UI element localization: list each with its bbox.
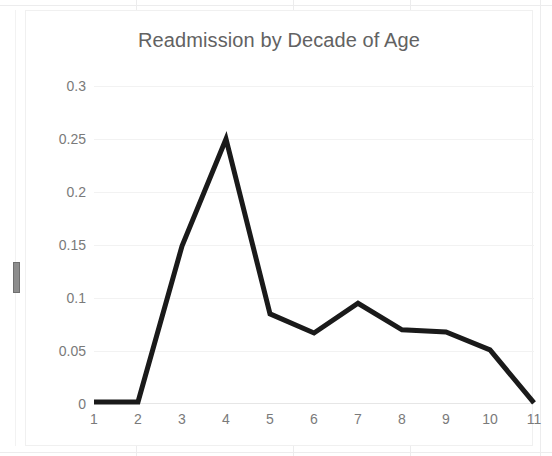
chart-title: Readmission by Decade of Age: [26, 29, 532, 52]
plot-area: [94, 86, 534, 404]
x-axis: 1 2 3 4 5 6 7 8 9 10 11: [94, 411, 534, 433]
x-tick-label: 4: [222, 411, 230, 427]
y-tick-label: 0.25: [59, 131, 86, 147]
y-tick-label: 0.1: [67, 290, 86, 306]
x-tick-label: 6: [310, 411, 318, 427]
x-tick-label: 8: [398, 411, 406, 427]
x-tick-label: 3: [178, 411, 186, 427]
sheet-column-line: [540, 0, 541, 456]
x-tick-label: 7: [354, 411, 362, 427]
y-tick-label: 0.2: [67, 184, 86, 200]
x-tick-label: 11: [527, 411, 542, 427]
chart-plot-svg: [94, 86, 534, 404]
sheet-row-line: [0, 452, 552, 453]
y-tick-label: 0.3: [67, 78, 86, 94]
x-tick-label: 5: [266, 411, 274, 427]
x-tick-label: 2: [134, 411, 142, 427]
x-tick-label: 9: [442, 411, 450, 427]
data-series-line: [94, 139, 534, 403]
sheet-row-line: [0, 5, 552, 6]
scroll-handle[interactable]: [13, 262, 20, 293]
chart-container[interactable]: Readmission by Decade of Age 0 0.05 0.1 …: [25, 10, 533, 446]
y-axis: 0 0.05 0.1 0.15 0.2 0.25 0.3: [34, 86, 86, 404]
x-tick-label: 1: [90, 411, 98, 427]
y-tick-label: 0.15: [59, 237, 86, 253]
y-tick-label: 0: [78, 396, 86, 412]
y-tick-label: 0.05: [59, 343, 86, 359]
x-tick-label: 10: [482, 411, 498, 427]
sheet-edge-guide: [15, 10, 16, 446]
